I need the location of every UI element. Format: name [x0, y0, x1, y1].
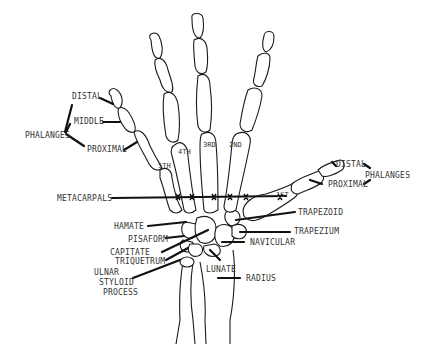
carpal-bones: [180, 210, 246, 256]
label-pisaform: PISAFORM: [128, 235, 168, 244]
label-process: PROCESS: [103, 288, 138, 297]
capitate-bone: [195, 216, 216, 243]
label-radius: RADIUS: [246, 274, 276, 283]
label-thumb-distal: DISTAL: [336, 160, 366, 169]
label-triquetrum: TRIQUETRUM: [115, 257, 165, 266]
label-navicular: NAVICULAR: [250, 238, 295, 247]
hand-skeleton-drawing: [0, 0, 428, 344]
label-lunate: LUNATE: [206, 265, 236, 274]
label-digit-2nd: 2ND: [229, 141, 242, 149]
label-thumb-phalanges: PHALANGES: [365, 171, 410, 180]
navicular-bone: [215, 225, 235, 247]
label-thumb-proximal: PROXIMAL: [328, 180, 368, 189]
label-capitate: CAPITATE: [110, 248, 150, 257]
lunate-bone: [204, 244, 221, 256]
label-digit-5th: 5TH: [158, 162, 171, 170]
triquetrum-bone: [188, 244, 202, 256]
finger-2nd: [224, 32, 274, 213]
label-ulnar: ULNAR: [94, 268, 119, 277]
hand-skeleton-diagram: DISTAL MIDDLE PHALANGES PROXIMAL METACAR…: [0, 0, 428, 344]
label-phalanges: PHALANGES: [25, 131, 70, 140]
label-trapezoid: TRAPEZOID: [298, 208, 343, 217]
label-middle-phalanx: MIDDLE: [74, 117, 104, 126]
finger-3rd: [192, 14, 218, 214]
label-distal-phalanx: DISTAL: [72, 92, 102, 101]
label-digit-1st: 1ST: [276, 191, 289, 199]
label-digit-4th: 4TH: [178, 148, 191, 156]
label-proximal-phalanx: PROXIMAL: [87, 145, 127, 154]
label-trapezium: TRAPEZIUM: [294, 227, 339, 236]
label-digit-3rd: 3RD: [203, 141, 216, 149]
label-styloid: STYLOID: [99, 278, 134, 287]
label-hamate: HAMATE: [114, 222, 144, 231]
label-metacarpals: METACARPALS: [57, 194, 112, 203]
